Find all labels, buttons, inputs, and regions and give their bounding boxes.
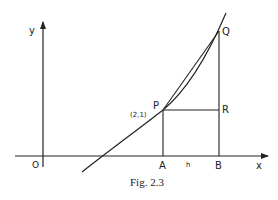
y-axis-label: y <box>29 25 35 36</box>
x-axis-label: x <box>256 160 262 171</box>
figure-caption: Fig. 2.3 <box>130 176 164 188</box>
diagram-canvas: y x O P (2,1) Q R A B h Fig. 2.3 <box>0 0 278 200</box>
chord-pq <box>163 31 219 110</box>
point-a-label: A <box>159 160 166 171</box>
point-p-coord: (2,1) <box>130 111 147 119</box>
point-p-label: P <box>153 100 159 111</box>
point-r-label: R <box>222 104 229 115</box>
curve <box>82 13 226 172</box>
point-q-label: Q <box>222 26 230 37</box>
point-b-label: B <box>215 160 222 171</box>
origin-label: O <box>32 160 39 170</box>
increment-h-label: h <box>186 161 190 169</box>
